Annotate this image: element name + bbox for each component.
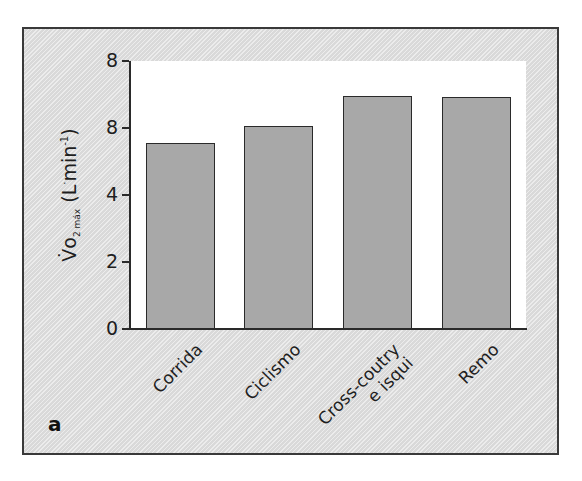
y-tick [122, 194, 129, 196]
y-tick-label: 2 [88, 251, 118, 271]
panel-label: a [48, 412, 62, 436]
y-tick-label: 0 [88, 318, 118, 338]
y-axis-label: V̇o2 máx (L·min-1) [58, 128, 83, 261]
x-axis [122, 328, 527, 330]
y-tick [122, 261, 129, 263]
y-tick-label: 8 [88, 117, 118, 137]
bar [442, 97, 511, 329]
bar [244, 126, 313, 329]
y-axis [129, 61, 131, 330]
y-tick [122, 127, 129, 129]
y-tick [122, 328, 129, 330]
y-tick [122, 60, 129, 62]
bar [146, 143, 215, 329]
bar [343, 96, 412, 329]
y-tick-label: 4 [88, 184, 118, 204]
y-tick-label: 8 [88, 50, 118, 70]
